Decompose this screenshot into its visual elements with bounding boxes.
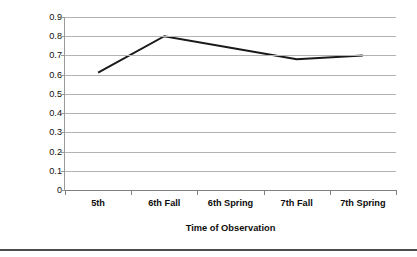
y-axis-tick-label: 0.5 [36, 89, 62, 99]
x-axis-title: Time of Observation [65, 223, 396, 233]
x-axis-tick [197, 190, 198, 195]
y-axis-tick [61, 113, 65, 114]
x-axis-tick [330, 190, 331, 195]
y-axis-tick [61, 94, 65, 95]
y-axis-tick-label: 0.6 [36, 70, 62, 80]
y-axis-tick [61, 75, 65, 76]
gridline [65, 152, 396, 153]
gridline [65, 94, 396, 95]
gridline [65, 132, 396, 133]
x-axis-tick-label: 6th Fall [131, 197, 197, 209]
gridline [65, 55, 396, 56]
series-line-self-reported-bullying [65, 17, 396, 190]
gridline [65, 36, 396, 37]
y-axis-tick-label: 0.3 [36, 127, 62, 137]
y-axis-tick-label: 0.1 [36, 166, 62, 176]
y-axis-tick [61, 171, 65, 172]
x-axis-tick-label: 7th Fall [264, 197, 330, 209]
y-axis-tick-label: 0.2 [36, 147, 62, 157]
y-axis-tick [61, 152, 65, 153]
y-axis-tick-labels: 0.90.80.70.60.50.40.30.20.10 [36, 12, 62, 190]
x-axis-tick-label: 5th [65, 197, 131, 209]
y-axis-tick-label: 0.9 [36, 12, 62, 22]
y-axis-tick-label: 0.7 [36, 50, 62, 60]
x-axis-line [64, 190, 396, 191]
x-axis-tick [65, 190, 66, 195]
y-axis-tick-label: 0.8 [36, 31, 62, 41]
gridline [65, 17, 396, 18]
y-axis-tick [61, 36, 65, 37]
gridline [65, 113, 396, 114]
x-axis-tick [131, 190, 132, 195]
plot-area [65, 17, 396, 190]
x-axis-tick-label: 6th Spring [197, 197, 263, 209]
gridline [65, 171, 396, 172]
y-axis-tick-label: 0 [36, 185, 62, 195]
y-axis-tick-label: 0.4 [36, 108, 62, 118]
y-axis-tick [61, 17, 65, 18]
x-axis-tick-label: 7th Spring [330, 197, 396, 209]
gridline [65, 75, 396, 76]
x-axis-tick [264, 190, 265, 195]
y-axis-tick [61, 132, 65, 133]
x-axis-tick-labels: 5th6th Fall6th Spring7th Fall7th Spring [65, 197, 396, 211]
chart-figure: Self-Reported Bullying 0.90.80.70.60.50.… [0, 0, 417, 257]
bottom-divider [0, 249, 417, 251]
y-axis-tick [61, 55, 65, 56]
x-axis-tick [396, 190, 397, 195]
